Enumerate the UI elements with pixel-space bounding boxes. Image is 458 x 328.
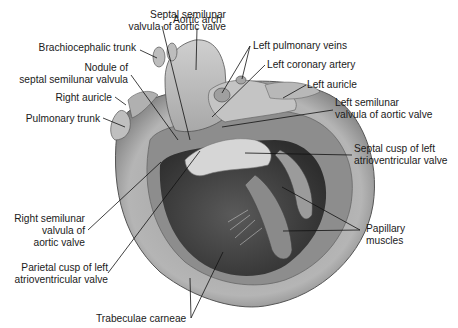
label-line: valvula of: [0, 225, 85, 237]
label-line: aortic valve: [0, 237, 85, 249]
label-line: muscles: [366, 235, 405, 247]
label-line: Left semilunar: [335, 97, 432, 109]
label-papillary-muscles: Papillary muscles: [366, 223, 405, 247]
label-septal-cusp: Septal cusp of left atrioventricular val…: [354, 143, 447, 167]
label-left-pulmonary-veins: Left pulmonary veins: [253, 40, 347, 52]
label-brachiocephalic-trunk: Brachiocephalic trunk: [20, 42, 136, 54]
label-right-semilunar-valvula: Right semilunar valvula of aortic valve: [0, 213, 85, 249]
label-line: Septal cusp of left: [354, 143, 447, 155]
label-line: atrioventricular valve: [0, 274, 108, 286]
label-parietal-cusp: Parietal cusp of left atrioventricular v…: [0, 262, 108, 286]
label-nodule-septal-semilunar: Nodule of septal semilunar valvula: [8, 62, 128, 86]
label-left-coronary-artery: Left coronary artery: [267, 59, 355, 71]
label-line: Right semilunar: [0, 213, 85, 225]
label-line: Nodule of: [8, 62, 128, 74]
label-right-auricle: Right auricle: [30, 92, 112, 104]
label-line: atrioventricular valve: [354, 155, 447, 167]
label-pulmonary-trunk: Pulmonary trunk: [10, 113, 100, 125]
label-aortic-arch: Aortic arch: [173, 14, 222, 26]
label-left-auricle: Left auricle: [307, 79, 357, 91]
label-left-semilunar-valvula: Left semilunar valvula of aortic valve: [335, 97, 432, 121]
label-line: valvula of aortic valve: [335, 109, 432, 121]
label-trabeculae-carneae: Trabeculae carneae: [96, 313, 186, 325]
heart-diagram: Septal semilunar valvula of aortic valve…: [0, 0, 458, 328]
label-line: Papillary: [366, 223, 405, 235]
label-line: septal semilunar valvula: [8, 74, 128, 86]
label-line: Parietal cusp of left: [0, 262, 108, 274]
